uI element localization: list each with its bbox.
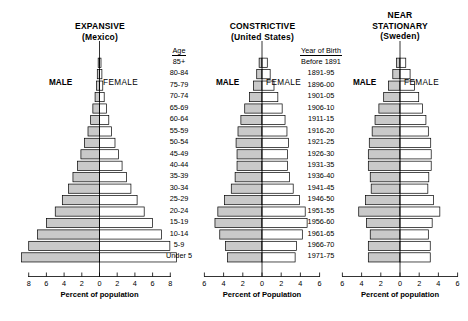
bar-male <box>245 104 262 113</box>
bar-male <box>369 138 400 147</box>
age-label-column-item: 65-69 <box>158 102 200 113</box>
bar-male <box>250 92 262 101</box>
birth-year-label-column-item: 1956-60 <box>295 216 347 227</box>
birth-year-label-column-item: 1921-25 <box>295 136 347 147</box>
birth-year-label-column-header: Year of Birth <box>300 46 342 57</box>
bar-male <box>393 70 400 79</box>
bar-male <box>365 196 400 205</box>
bar-female <box>262 138 288 147</box>
birth-year-label-column-item: 1951-55 <box>295 205 347 216</box>
bar-male <box>62 196 99 205</box>
bar-female <box>100 196 138 205</box>
bar-male <box>237 161 262 170</box>
bar-male <box>259 58 262 67</box>
population-pyramid-figure: EXPANSIVE(Mexico)CONSTRICTIVE(United Sta… <box>0 0 468 321</box>
bar-female <box>262 173 289 182</box>
bar-male <box>379 104 400 113</box>
age-label-column-item: 25-29 <box>158 193 200 204</box>
bar-female <box>100 150 119 159</box>
bar-female <box>262 70 270 79</box>
bar-female <box>262 58 267 67</box>
bar-male <box>372 127 400 136</box>
birth-year-label-column-item: 1891-95 <box>295 67 347 78</box>
bar-female <box>100 115 109 124</box>
bar-male <box>46 218 99 227</box>
age-label-column: Age85+80-8475-7970-7465-6960-6455-5950-5… <box>158 45 200 262</box>
bar-female <box>262 150 287 159</box>
bar-male <box>253 81 262 90</box>
age-label-column-item: 10-14 <box>158 228 200 239</box>
birth-year-label-column-item: 1896-00 <box>295 79 347 90</box>
bar-female <box>262 253 295 262</box>
bar-male <box>366 218 400 227</box>
bar-female <box>262 184 293 193</box>
birth-year-label-column-item: 1966-70 <box>295 239 347 250</box>
age-label-column-item: 70-74 <box>158 90 200 101</box>
age-label-column-item: 85+ <box>158 56 200 67</box>
bar-male <box>22 253 100 262</box>
bar-male <box>77 161 99 170</box>
x-axis-caption-sweden: Percent of population <box>320 290 468 299</box>
female-label-united-states: FEMALE <box>266 78 301 87</box>
bar-female <box>100 92 105 101</box>
bar-male <box>359 207 400 216</box>
panel-title-text-line2: STATIONARY <box>348 21 452 32</box>
bar-male <box>95 92 99 101</box>
birth-year-label-column-item: 1946-50 <box>295 193 347 204</box>
x-axis-tick-label: 6 <box>340 279 344 288</box>
male-label-united-states: MALE <box>216 78 239 87</box>
bar-male <box>257 70 262 79</box>
age-label-column-item: 5-9 <box>158 239 200 250</box>
bar-male <box>225 196 262 205</box>
age-label-column-item: 35-39 <box>158 170 200 181</box>
bar-male <box>29 241 100 250</box>
bar-male <box>81 150 100 159</box>
bar-male <box>388 81 400 90</box>
bar-female <box>262 115 285 124</box>
bar-female <box>400 196 434 205</box>
birth-year-label-column-item: 1926-30 <box>295 148 347 159</box>
bar-female <box>400 58 406 67</box>
age-label-column-item: 80-84 <box>158 67 200 78</box>
birth-year-label-column-item: 1961-65 <box>295 228 347 239</box>
birth-year-label-column-item: 1941-45 <box>295 182 347 193</box>
x-axis-tick-label: 4 <box>436 279 440 288</box>
bar-female <box>400 253 430 262</box>
female-label-sweden: FEMALE <box>404 78 439 87</box>
bar-male <box>220 230 262 239</box>
bar-male <box>38 230 100 239</box>
bar-female <box>400 150 431 159</box>
bar-male <box>368 253 400 262</box>
female-label-mexico: FEMALE <box>103 78 138 87</box>
bar-female <box>100 173 127 182</box>
bar-male <box>370 230 400 239</box>
bar-male <box>93 104 100 113</box>
bar-female <box>400 70 410 79</box>
bar-male <box>370 173 400 182</box>
bar-male <box>91 115 100 124</box>
age-label-column-item: 55-59 <box>158 125 200 136</box>
birth-year-label-column-item: 1906-10 <box>295 102 347 113</box>
bar-female <box>400 92 419 101</box>
panel-title-text: CONSTRICTIVE <box>205 21 320 32</box>
bar-male <box>69 184 100 193</box>
bar-female <box>262 196 299 205</box>
age-label-column-item: 30-34 <box>158 182 200 193</box>
bar-male <box>368 150 400 159</box>
age-label-column-item: 75-79 <box>158 79 200 90</box>
bar-male <box>55 207 99 216</box>
bar-male <box>84 138 99 147</box>
age-label-column-item: 15-19 <box>158 216 200 227</box>
bar-male <box>231 184 262 193</box>
bar-male <box>218 207 262 216</box>
bar-female <box>100 218 153 227</box>
bar-female <box>400 127 428 136</box>
bar-male <box>397 58 400 67</box>
age-label-column-item: 60-64 <box>158 113 200 124</box>
bar-male <box>238 127 262 136</box>
panel-subtitle-text: (Sweden) <box>348 31 452 42</box>
bar-female <box>262 104 282 113</box>
pyramids-canvas <box>0 0 468 321</box>
bar-male <box>73 173 100 182</box>
panel-title-sweden: NEARSTATIONARY(Sweden) <box>348 10 452 42</box>
